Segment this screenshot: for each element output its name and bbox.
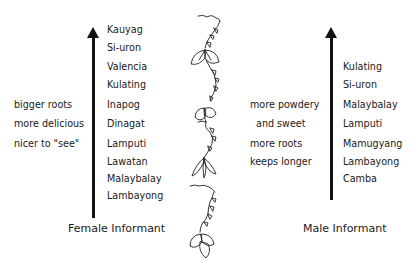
arrow-shaft [330,36,333,200]
male-rank-item: Kulating [343,61,382,73]
female-rank-item: Lamputi [107,138,146,150]
male-rank-item: Si-uron [343,79,377,91]
male-rank-item: Lamputi [343,118,382,130]
male-rank-item: Camba [343,173,377,185]
male-criterion: more powdery [250,99,319,111]
male-rank-item: Lambayong [343,156,399,168]
female-rank-item: Inapog [107,99,140,111]
female-rank-item: Kulating [107,79,146,91]
female-criterion: more delicious [14,118,84,130]
sweet-potato-vine-icon [170,10,240,270]
male-criterion: and sweet [256,118,306,130]
female-rank-item: Lawatan [107,156,148,168]
female-rank-item: Malaybalay [107,173,162,185]
male-criterion: more roots [250,138,302,150]
female-rank-item: Kauyag [107,24,143,36]
female-rank-item: Si-uron [107,42,141,54]
female-rank-item: Dinagat [107,118,145,130]
female-criterion: bigger roots [14,99,72,111]
female-rank-item: Lambayong [107,190,163,202]
arrow-shaft [92,36,95,218]
female-informant-title: Female Informant [68,222,165,236]
male-rank-item: Malaybalay [343,99,398,111]
male-criterion: keeps longer [250,156,312,168]
male-informant-title: Male Informant [303,222,386,236]
female-criterion: nicer to "see" [14,138,79,150]
female-rank-item: Valencia [107,61,147,73]
male-rank-item: Mamugyang [343,138,402,150]
